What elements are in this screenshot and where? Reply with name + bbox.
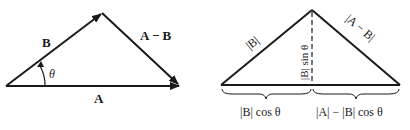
left-triangle: B A − B θ A bbox=[6, 13, 179, 106]
vector-diagram: B A − B θ A |B| |A − B| |B| sin θ |B| co… bbox=[0, 0, 410, 130]
label-abs-A-minus-B: |A − B| bbox=[343, 12, 378, 44]
label-abs-B: |B| bbox=[243, 33, 262, 52]
label-theta: θ bbox=[49, 67, 55, 81]
brace-right bbox=[313, 89, 399, 99]
theta-arc-icon bbox=[40, 66, 45, 86]
label-B-cos-theta: |B| cos θ bbox=[240, 105, 281, 119]
label-A-minus-B: A − B bbox=[140, 28, 172, 43]
label-A: A bbox=[94, 91, 104, 106]
right-triangle: |B| |A − B| |B| sin θ |B| cos θ |A| − |B… bbox=[221, 10, 400, 119]
label-B-sin-theta: |B| sin θ bbox=[298, 45, 310, 80]
brace-left bbox=[222, 89, 311, 99]
vector-AminusB-arrow bbox=[102, 13, 178, 84]
label-A-minus-B-cos-theta: |A| − |B| cos θ bbox=[316, 105, 383, 119]
diagram-canvas: B A − B θ A |B| |A − B| |B| sin θ |B| co… bbox=[0, 0, 410, 130]
label-B: B bbox=[42, 35, 51, 50]
